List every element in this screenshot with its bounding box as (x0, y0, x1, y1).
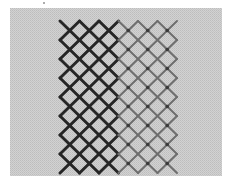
stray-mark (43, 2, 45, 4)
embroidery-photo (0, 0, 233, 183)
